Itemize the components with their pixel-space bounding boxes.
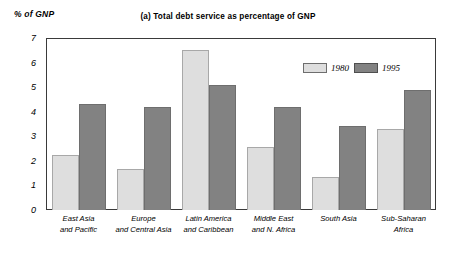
bar-1980	[312, 177, 339, 210]
x-axis-category-label: South Asia	[306, 214, 371, 225]
legend-entry-1995: 1995	[354, 63, 400, 73]
bar-1995	[274, 107, 301, 210]
bar-1980	[52, 155, 79, 210]
bar-group	[46, 38, 111, 210]
bar-group	[241, 38, 306, 210]
legend-label-1980: 1980	[331, 63, 349, 73]
bar-1980	[182, 50, 209, 210]
y-axis-tick-label: 3	[31, 131, 36, 141]
chart-figure: % of GNP (a) Total debt service as perce…	[0, 0, 456, 254]
y-axis-tick-label: 0	[31, 205, 36, 215]
y-axis-tick-label: 2	[31, 156, 36, 166]
y-axis-tick-label: 7	[31, 33, 36, 43]
bar-1980	[117, 169, 144, 210]
x-axis-category-label: Middle Eastand N. Africa	[241, 214, 306, 235]
bar-group	[111, 38, 176, 210]
legend-label-1995: 1995	[382, 63, 400, 73]
legend-entry-1980: 1980	[303, 63, 349, 73]
x-axis-category-label: Latin Americaand Caribbean	[176, 214, 241, 235]
bar-1995	[339, 126, 366, 210]
bar-1995	[209, 85, 236, 210]
y-axis-tick-label: 5	[31, 82, 36, 92]
x-axis-category-label: East Asiaand Pacific	[46, 214, 111, 235]
x-axis-labels: East Asiaand PacificEuropeand Central As…	[46, 214, 436, 250]
bar-1980	[377, 129, 404, 210]
bar-group	[176, 38, 241, 210]
y-axis: 01234567	[0, 38, 42, 210]
bar-1995	[144, 107, 171, 210]
bar-1995	[404, 90, 431, 210]
y-axis-tick-label: 6	[31, 58, 36, 68]
chart-title: (a) Total debt service as percentage of …	[0, 12, 456, 21]
x-axis-category-label: Europeand Central Asia	[111, 214, 176, 235]
legend-swatch-1995	[354, 63, 378, 73]
bar-1995	[79, 104, 106, 210]
legend-swatch-1980	[303, 63, 327, 73]
y-axis-tick-label: 4	[31, 107, 36, 117]
y-axis-tick-label: 1	[31, 180, 36, 190]
bar-1980	[247, 147, 274, 210]
x-axis-category-label: Sub-SaharanAfrica	[371, 214, 436, 235]
chart-legend: 19801995	[303, 63, 400, 73]
